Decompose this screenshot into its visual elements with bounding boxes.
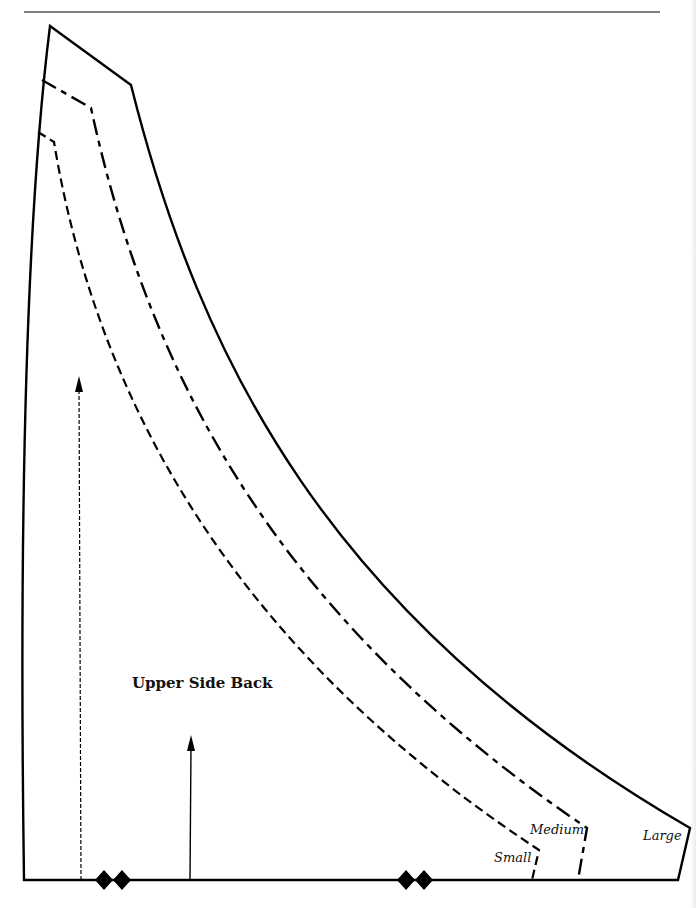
size-label-medium: Medium [529, 822, 584, 837]
medium-size-line [42, 80, 587, 880]
large-size-outline [22, 26, 690, 880]
size-label-large: Large [642, 828, 682, 843]
double-notch-left [95, 870, 131, 890]
size-label-small: Small [494, 850, 531, 865]
small-size-line [38, 132, 539, 880]
piece-name-label: Upper Side Back [132, 674, 273, 692]
pattern-diagram: Upper Side Back Small Medium Large [0, 0, 696, 908]
solid-grainline-arrow [187, 735, 195, 880]
dotted-grainline-arrow [75, 376, 83, 880]
pattern-page: Upper Side Back Small Medium Large [0, 0, 696, 908]
double-notch-right [397, 870, 433, 890]
